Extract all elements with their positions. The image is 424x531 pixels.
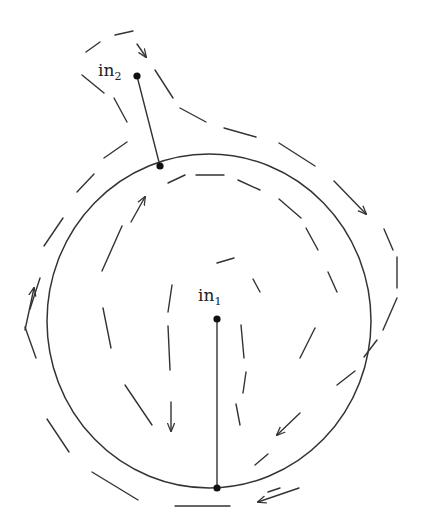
flow-dash	[217, 258, 234, 263]
flow-diagram	[0, 0, 424, 531]
in2-label-sub: 2	[114, 70, 121, 83]
flow-dash	[125, 385, 152, 425]
in2-boundary-point-icon	[156, 162, 163, 169]
in2-label: in2	[98, 62, 121, 82]
flow-dash	[25, 327, 36, 358]
boundary-circle	[47, 154, 371, 488]
flow-dash	[155, 70, 173, 98]
flow-dash	[279, 199, 301, 218]
flow-dash	[328, 272, 337, 292]
flow-dash	[44, 218, 63, 246]
in1-boundary-point-icon	[213, 484, 220, 491]
flow-dash	[236, 404, 240, 425]
flow-dash	[180, 108, 206, 122]
flow-dash	[114, 98, 127, 122]
flow-dash	[279, 143, 315, 166]
flow-arrow-icon	[258, 488, 299, 502]
flow-arrow-icon	[131, 197, 145, 222]
flow-arrow-icon	[277, 413, 300, 435]
flow-dash	[238, 180, 260, 190]
flow-arrow-icon	[137, 44, 146, 57]
flow-dash	[86, 42, 100, 52]
input-points	[133, 72, 220, 491]
flow-arrow-icon	[25, 288, 34, 330]
flow-dash	[253, 279, 260, 292]
flow-dash	[268, 488, 280, 492]
flow-dash	[300, 328, 315, 358]
flow-dash	[103, 308, 111, 348]
flow-dash	[102, 226, 122, 271]
flow-dash	[77, 174, 94, 192]
in1-label: in1	[198, 287, 221, 307]
flow-dash	[364, 340, 377, 357]
flow-dash	[255, 454, 268, 465]
flow-dash	[384, 229, 393, 250]
in1-label-sub: 1	[214, 295, 221, 308]
flow-dash	[337, 371, 355, 385]
flow-dash	[168, 285, 172, 312]
flow-dash	[168, 175, 185, 183]
flow-dash	[92, 472, 138, 500]
flow-dash	[243, 372, 246, 393]
flow-dash	[306, 228, 318, 250]
in2-point-icon	[133, 72, 140, 79]
flow-dash	[383, 298, 397, 330]
flow-dash	[30, 278, 40, 309]
input-connectors	[137, 76, 217, 488]
outer-flow-dashes	[25, 31, 397, 506]
flow-arrow-icon	[334, 181, 366, 214]
flow-dash	[168, 326, 170, 370]
flow-dash	[115, 31, 133, 35]
in2-connector	[137, 76, 160, 166]
flow-dash	[104, 142, 127, 158]
flow-dash	[224, 128, 256, 137]
flow-dash	[47, 419, 69, 452]
in1-point-icon	[213, 315, 220, 322]
in1-label-base: in	[198, 285, 214, 305]
flow-dash	[241, 325, 244, 358]
in2-label-base: in	[98, 60, 114, 80]
